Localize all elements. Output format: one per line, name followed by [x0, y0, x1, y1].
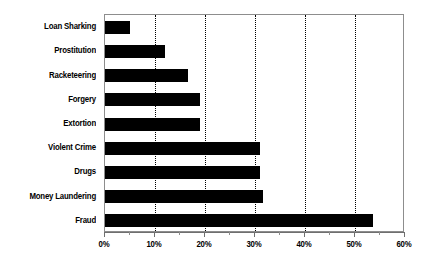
x-tick-minor	[129, 232, 130, 235]
category-label: Forgery	[8, 94, 96, 104]
x-tick-label: 20%	[186, 239, 223, 249]
x-tick-minor	[329, 232, 330, 235]
category-label: Drugs	[8, 166, 96, 176]
x-tick-minor	[379, 232, 380, 235]
category-label: Loan Sharking	[8, 21, 96, 31]
x-tick-label: 40%	[286, 239, 323, 249]
category-label: Prostitution	[8, 45, 96, 55]
bar	[105, 93, 200, 106]
x-tick-minor	[229, 232, 230, 235]
x-tick-major	[154, 232, 155, 237]
x-tick-major	[104, 232, 105, 237]
bar	[105, 118, 200, 131]
x-tick-minor	[279, 232, 280, 235]
bar	[105, 214, 373, 227]
x-tick-major	[304, 232, 305, 237]
x-tick-label: 0%	[86, 239, 123, 249]
gridline	[305, 15, 306, 231]
category-label: Extortion	[8, 118, 96, 128]
x-tick-major	[254, 232, 255, 237]
bar	[105, 166, 260, 179]
x-tick-label: 50%	[336, 239, 373, 249]
bar-chart: Loan SharkingProstitutionRacketeeringFor…	[0, 0, 422, 260]
category-label: Racketeering	[8, 70, 96, 80]
bar	[105, 69, 188, 82]
bar	[105, 21, 130, 34]
bar	[105, 142, 260, 155]
x-tick-major	[204, 232, 205, 237]
bar	[105, 45, 165, 58]
x-tick-major	[354, 232, 355, 237]
x-tick-major	[404, 232, 405, 237]
x-tick-label: 10%	[136, 239, 173, 249]
gridline	[355, 15, 356, 231]
x-tick-label: 60%	[386, 239, 422, 249]
category-label: Fraud	[8, 215, 96, 225]
x-tick-label: 30%	[236, 239, 273, 249]
plot-area	[104, 14, 404, 232]
x-tick-minor	[179, 232, 180, 235]
category-label: Violent Crime	[8, 142, 96, 152]
category-label: Money Laundering	[8, 191, 96, 201]
category-axis: Loan SharkingProstitutionRacketeeringFor…	[0, 14, 100, 232]
bar	[105, 190, 263, 203]
